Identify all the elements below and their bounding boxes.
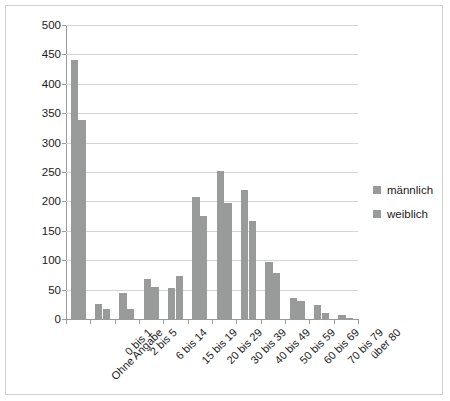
y-tickmark-250	[62, 172, 66, 173]
bar[interactable]	[297, 301, 305, 319]
bar-group	[290, 25, 305, 319]
y-tick-label-400: 400	[9, 78, 61, 90]
y-tickmark-150	[62, 231, 66, 232]
bar[interactable]	[241, 190, 249, 319]
bar[interactable]	[192, 197, 200, 319]
y-tick-label-450: 450	[9, 48, 61, 60]
bar[interactable]	[322, 313, 330, 319]
bar[interactable]	[119, 293, 127, 319]
bar[interactable]	[314, 305, 322, 319]
legend-label: männlich	[387, 184, 433, 196]
chart-legend: männlichweiblich	[373, 184, 433, 232]
y-tickmark-500	[62, 25, 66, 26]
bar-group	[71, 25, 86, 319]
bar[interactable]	[144, 279, 152, 319]
y-tickmark-350	[62, 113, 66, 114]
y-tick-label-350: 350	[9, 107, 61, 119]
y-tickmark-100	[62, 260, 66, 261]
y-tick-label-150: 150	[9, 225, 61, 237]
bar[interactable]	[176, 276, 184, 320]
x-tickmark	[236, 319, 237, 324]
x-tickmark	[358, 319, 359, 324]
y-tick-label-50: 50	[9, 284, 61, 296]
bar[interactable]	[273, 273, 281, 319]
y-axis-tick-labels: 050100150200250300350400450500	[6, 25, 61, 319]
bar[interactable]	[103, 309, 111, 319]
bar[interactable]	[71, 60, 79, 319]
y-tick-label-300: 300	[9, 137, 61, 149]
bar[interactable]	[338, 315, 346, 319]
x-tickmark	[163, 319, 164, 324]
bar[interactable]	[217, 171, 225, 319]
bar[interactable]	[95, 304, 103, 319]
legend-item-maennlich[interactable]: männlich	[373, 184, 433, 196]
bar-group	[338, 25, 353, 319]
bar-group	[192, 25, 207, 319]
bar-group	[314, 25, 329, 319]
bar[interactable]	[127, 309, 135, 319]
bar[interactable]	[224, 203, 232, 319]
bar[interactable]	[151, 287, 159, 319]
x-tickmark	[115, 319, 116, 324]
x-tickmark	[334, 319, 335, 324]
bar-group	[119, 25, 134, 319]
bar-group	[265, 25, 280, 319]
bar[interactable]	[265, 262, 273, 319]
x-tickmark	[66, 319, 67, 324]
y-tickmark-300	[62, 143, 66, 144]
bar-group	[168, 25, 183, 319]
legend-item-weiblich[interactable]: weiblich	[373, 208, 433, 220]
bar[interactable]	[346, 318, 354, 319]
bar[interactable]	[200, 216, 208, 319]
x-tickmark	[261, 319, 262, 324]
plot-area	[66, 25, 358, 319]
y-tickmark-50	[62, 290, 66, 291]
legend-swatch-icon	[373, 210, 381, 218]
y-tick-label-100: 100	[9, 254, 61, 266]
chart-frame: 050100150200250300350400450500 männlichw…	[5, 5, 443, 395]
bar-group	[144, 25, 159, 319]
y-tickmark-200	[62, 201, 66, 202]
y-tick-label-0: 0	[9, 313, 61, 325]
y-tick-label-250: 250	[9, 166, 61, 178]
y-tickmark-450	[62, 54, 66, 55]
bar-group	[241, 25, 256, 319]
bar[interactable]	[249, 221, 257, 319]
legend-swatch-icon	[373, 186, 381, 194]
y-tickmark-400	[62, 84, 66, 85]
bar[interactable]	[290, 298, 298, 319]
bar-group	[95, 25, 110, 319]
x-tickmark	[212, 319, 213, 324]
x-tickmark	[90, 319, 91, 324]
legend-label: weiblich	[387, 208, 428, 220]
x-tickmark	[285, 319, 286, 324]
bar-group	[217, 25, 232, 319]
bar[interactable]	[168, 288, 176, 319]
y-tick-label-500: 500	[9, 19, 61, 31]
bar[interactable]	[78, 120, 86, 319]
y-tick-label-200: 200	[9, 195, 61, 207]
bar-series-container	[66, 25, 358, 319]
x-tickmark	[139, 319, 140, 324]
x-tickmark	[309, 319, 310, 324]
x-tickmark	[188, 319, 189, 324]
